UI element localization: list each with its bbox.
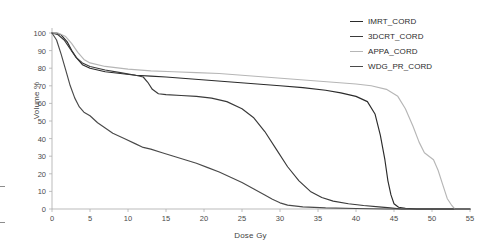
page-edge-mark <box>0 222 5 223</box>
legend-label-3dcrt: 3DCRT_CORD <box>368 32 424 41</box>
legend: IMRT_CORD 3DCRT_CORD APPA_CORD WDG_PR_CO… <box>350 14 495 74</box>
legend-swatch-appa <box>350 51 363 52</box>
legend-label-wdg-pr: WDG_PR_CORD <box>368 62 432 71</box>
legend-item-imrt[interactable]: IMRT_CORD <box>350 14 495 29</box>
legend-swatch-wdg-pr <box>350 66 363 67</box>
legend-swatch-3dcrt <box>350 36 363 37</box>
legend-item-appa[interactable]: APPA_CORD <box>350 44 495 59</box>
legend-item-3dcrt[interactable]: 3DCRT_CORD <box>350 29 495 44</box>
page-edge-mark <box>0 186 5 187</box>
legend-label-imrt: IMRT_CORD <box>368 17 416 26</box>
dvh-chart: 0102030405060708090100 05101520253035404… <box>0 0 501 250</box>
legend-swatch-imrt <box>350 21 363 22</box>
legend-item-wdg-pr[interactable]: WDG_PR_CORD <box>350 59 495 74</box>
legend-label-appa: APPA_CORD <box>368 47 418 56</box>
